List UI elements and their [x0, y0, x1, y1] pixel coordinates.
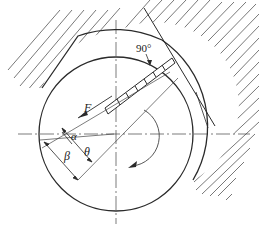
force-label: F — [83, 101, 92, 115]
radial-line-upper — [42, 72, 170, 148]
beta-label: β — [63, 149, 70, 163]
vane-blade-slot — [105, 58, 175, 114]
right-angle-label: 90° — [136, 42, 151, 54]
alpha-label: α — [71, 130, 77, 142]
vane-pump-diagram: F α β θ 90° — [0, 0, 259, 234]
hatched-housing — [8, 0, 259, 200]
theta-label: θ — [84, 145, 90, 159]
rotation-arrow — [128, 110, 159, 168]
radial-line-beta — [40, 134, 114, 140]
